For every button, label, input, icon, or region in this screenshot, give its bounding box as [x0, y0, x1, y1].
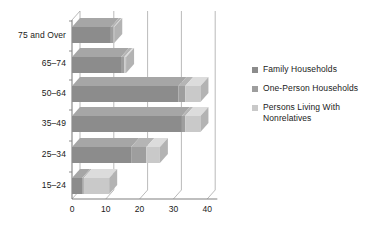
- legend-item: One-Person Households: [252, 83, 385, 94]
- legend-label: Family Households: [263, 64, 337, 75]
- x-axis-tick-label: 30: [163, 204, 183, 214]
- legend-item: Persons Living With Nonrelatives: [252, 102, 385, 124]
- bar-segment: [72, 138, 139, 163]
- x-axis-tick-label: 20: [130, 204, 150, 214]
- legend-label: Persons Living With Nonrelatives: [263, 102, 385, 124]
- legend-swatch-icon: [252, 86, 258, 92]
- bar-segment: [72, 77, 186, 102]
- x-axis-tick-label: 40: [197, 204, 217, 214]
- legend-swatch-icon: [252, 67, 258, 73]
- x-axis-tick-label: 10: [96, 204, 116, 214]
- x-axis-tick-label: 0: [62, 204, 82, 214]
- chart-legend: Family Households One-Person Households …: [252, 64, 385, 132]
- bar-segment: [72, 48, 129, 73]
- bar-segment: [72, 107, 190, 132]
- legend-swatch-icon: [252, 105, 258, 111]
- legend-item: Family Households: [252, 64, 385, 75]
- bar-chart: 75 and Over 65–74 50–64 35–49 25–34 15–2…: [0, 0, 387, 228]
- bar-series-group: [72, 18, 208, 194]
- legend-label: One-Person Households: [263, 83, 358, 94]
